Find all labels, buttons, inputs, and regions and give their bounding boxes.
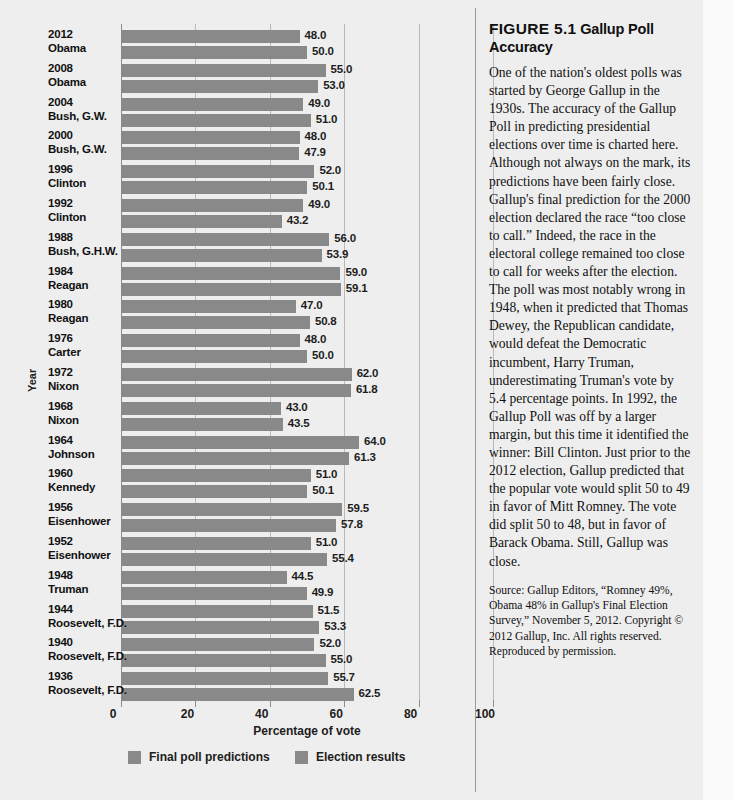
category-label-1964: 1964Johnson [48, 433, 95, 461]
row-label-year: 1968 [48, 399, 79, 413]
bar-1976-prediction [121, 334, 300, 347]
category-label-1968: 1968Nixon [48, 399, 79, 427]
bar-2008-result [121, 80, 318, 93]
tick-label-100: 100 [475, 707, 495, 721]
row-label-name: Truman [48, 582, 88, 596]
row-label-name: Clinton [48, 210, 86, 224]
bar-1984-prediction [121, 267, 340, 280]
category-label-1956: 1956Eisenhower [48, 500, 111, 528]
bar-value-1980-result: 50.8 [315, 315, 337, 328]
bar-1980-result [121, 316, 310, 329]
bar-value-1988-prediction: 56.0 [334, 232, 356, 245]
row-label-year: 1988 [48, 230, 118, 244]
bar-value-1980-prediction: 47.0 [301, 299, 323, 312]
bar-1984-result [121, 283, 341, 296]
bar-1960-prediction [121, 469, 311, 482]
bar-value-1944-prediction: 51.5 [318, 604, 340, 617]
bar-1972-prediction [121, 368, 352, 381]
bar-1960-result [121, 485, 307, 498]
bar-value-1944-result: 53.3 [324, 620, 346, 633]
bar-value-1964-result: 61.3 [354, 451, 376, 464]
bar-1992-result [121, 215, 282, 228]
bar-value-1992-prediction: 49.0 [308, 198, 330, 211]
bar-value-1948-result: 49.9 [312, 586, 334, 599]
bar-1944-prediction [121, 605, 313, 618]
tick-label-0: 0 [110, 707, 117, 721]
row-label-name: Obama [48, 41, 86, 55]
bar-1952-prediction [121, 537, 311, 550]
bar-value-2004-prediction: 49.0 [308, 97, 330, 110]
bar-1952-result [121, 553, 327, 566]
row-label-name: Johnson [48, 447, 95, 461]
bar-value-1984-result: 59.1 [346, 282, 368, 295]
category-label-1940: 1940Roosevelt, F.D. [48, 635, 127, 663]
row-label-year: 1944 [48, 602, 127, 616]
bar-value-1976-result: 50.0 [312, 349, 334, 362]
bar-value-1976-prediction: 48.0 [305, 333, 327, 346]
gridline-60 [344, 24, 345, 700]
bar-value-1960-result: 50.1 [312, 484, 334, 497]
y-axis-label: Year [26, 369, 38, 392]
tick-mark-80 [419, 700, 420, 707]
bar-value-2008-prediction: 55.0 [331, 63, 353, 76]
bar-value-1936-result: 62.5 [359, 687, 381, 700]
category-label-1948: 1948Truman [48, 568, 88, 596]
bar-1936-result [121, 688, 354, 701]
category-label-1980: 1980Reagan [48, 297, 88, 325]
legend-swatch-icon [295, 751, 308, 764]
bar-1940-prediction [121, 638, 314, 651]
row-label-name: Clinton [48, 176, 86, 190]
row-label-year: 2008 [48, 61, 86, 75]
tick-label-20: 20 [181, 707, 194, 721]
bar-2004-prediction [121, 98, 303, 111]
bar-1948-prediction [121, 571, 287, 584]
bar-1996-result [121, 181, 307, 194]
row-label-year: 1980 [48, 297, 88, 311]
bar-value-1936-prediction: 55.7 [333, 671, 355, 684]
row-label-year: 2012 [48, 27, 86, 41]
bar-2004-result [121, 114, 311, 127]
bar-1964-result [121, 452, 349, 465]
legend-label: Final poll predictions [149, 750, 270, 764]
bar-2000-prediction [121, 131, 300, 144]
bar-1968-prediction [121, 402, 281, 415]
figure-number: FIGURE 5.1 [489, 20, 576, 37]
bar-1956-prediction [121, 503, 342, 516]
bar-value-1940-prediction: 52.0 [319, 637, 341, 650]
category-label-2004: 2004Bush, G.W. [48, 95, 107, 123]
category-label-1976: 1976Carter [48, 331, 81, 359]
bar-chart: 020406080100 Percentage of vote Year Fin… [0, 0, 465, 800]
bar-1976-result [121, 350, 307, 363]
legend-label: Election results [316, 750, 405, 764]
bar-value-2008-result: 53.0 [323, 79, 345, 92]
bar-value-1948-prediction: 44.5 [292, 570, 314, 583]
row-label-year: 1972 [48, 365, 79, 379]
tick-label-60: 60 [330, 707, 343, 721]
tick-label-80: 80 [404, 707, 417, 721]
row-label-name: Carter [48, 345, 81, 359]
figure-caption: FIGURE 5.1 Gallup Poll Accuracy One of t… [489, 20, 694, 660]
bar-1956-result [121, 519, 336, 532]
bar-value-1972-result: 61.8 [356, 383, 378, 396]
legend-item-1[interactable]: Final poll predictions [128, 750, 270, 764]
legend-item-2[interactable]: Election results [295, 750, 405, 764]
bar-1988-prediction [121, 233, 329, 246]
row-label-year: 1964 [48, 433, 95, 447]
row-label-year: 1948 [48, 568, 88, 582]
row-label-year: 2000 [48, 128, 107, 142]
row-label-name: Kennedy [48, 480, 95, 494]
x-axis-ticks: 020406080100 [121, 700, 493, 724]
row-label-year: 1976 [48, 331, 81, 345]
bar-2000-result [121, 147, 299, 160]
row-label-name: Nixon [48, 413, 79, 427]
row-label-name: Bush, G.H.W. [48, 244, 118, 258]
figure-page: 020406080100 Percentage of vote Year Fin… [0, 0, 733, 800]
bar-value-1988-result: 53.9 [327, 248, 349, 261]
row-label-name: Reagan [48, 311, 88, 325]
gridline-80 [419, 24, 420, 700]
bar-1988-result [121, 249, 322, 262]
row-label-name: Roosevelt, F.D. [48, 683, 127, 697]
row-label-year: 1956 [48, 500, 111, 514]
bar-value-1960-prediction: 51.0 [316, 468, 338, 481]
tick-label-40: 40 [255, 707, 268, 721]
